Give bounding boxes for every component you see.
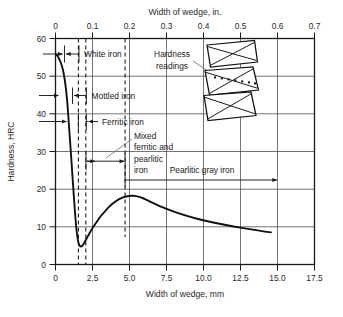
mixed-leader-line	[106, 139, 132, 158]
top-tick-label-6: 0.6	[272, 21, 284, 31]
mixed-label-line2: ferritic and	[134, 142, 173, 152]
bottom-tick-label-4: 10.0	[195, 273, 212, 283]
left-tick-label-60: 60	[37, 34, 47, 44]
mixed-label-line3: pearlitic	[134, 154, 163, 164]
bottom-tick-label-3: 7.5	[161, 273, 173, 283]
top-axis-title: Width of wedge, in.	[148, 7, 221, 17]
mixed-label-line4: iron	[134, 165, 148, 175]
bottom-tick-label-6: 15.0	[269, 273, 286, 283]
wedge-specimens-inset	[204, 41, 259, 121]
left-tick-label-40: 40	[37, 109, 47, 119]
top-axis: 0 0.1 0.2 0.3 0.4 0.5 0.6 0.7 Width of w…	[53, 7, 320, 39]
top-tick-label-1: 0.1	[87, 21, 99, 31]
bottom-axis: 0 2.5 5.0 7.5 10.0 12.5 15.0 17.5 Width …	[53, 265, 323, 300]
bottom-tick-label-5: 12.5	[232, 273, 249, 283]
hardness-readings-label-line2: readings	[156, 61, 188, 71]
top-tick-label-3: 0.3	[161, 21, 173, 31]
mottled-iron-label: Mottled iron	[92, 91, 136, 101]
white-iron-label: White iron	[84, 49, 122, 59]
left-tick-label-50: 50	[37, 71, 47, 81]
hardness-readings-label-line1: Hardness	[154, 49, 190, 59]
wedge-specimen-bottom	[204, 92, 256, 121]
chart-figure: 0 0.1 0.2 0.3 0.4 0.5 0.6 0.7 Width of w…	[0, 0, 343, 317]
top-tick-label-7: 0.7	[309, 21, 321, 31]
left-axis: 0 10 20 30 40 50 60 Hardness, HRC	[6, 34, 56, 270]
annotation-mottled-iron: Mottled iron	[39, 88, 136, 105]
pearlitic-gray-iron-label: Pearlitic gray iron	[170, 165, 235, 175]
left-tick-label-0: 0	[41, 260, 46, 270]
ferritic-iron-label: Ferritic iron	[102, 117, 144, 127]
top-tick-label-2: 0.2	[124, 21, 136, 31]
bottom-axis-title: Width of wedge, mm	[146, 289, 224, 299]
left-tick-label-30: 30	[37, 147, 47, 157]
bottom-tick-label-1: 2.5	[87, 273, 99, 283]
left-tick-label-10: 10	[37, 222, 47, 232]
bottom-tick-label-7: 17.5	[306, 273, 323, 283]
annotation-ferritic-iron: Ferritic iron	[39, 114, 144, 131]
wedge-specimen-top	[207, 41, 258, 68]
bottom-tick-label-2: 5.0	[124, 273, 136, 283]
left-tick-label-20: 20	[37, 184, 47, 194]
top-tick-label-5: 0.5	[235, 21, 247, 31]
mixed-label-line1: Mixed	[134, 131, 157, 141]
left-axis-title: Hardness, HRC	[6, 121, 16, 181]
top-tick-label-0: 0	[53, 21, 58, 31]
wedge-specimen-middle	[205, 67, 259, 95]
bottom-tick-label-0: 0	[53, 273, 58, 283]
top-tick-label-4: 0.4	[198, 21, 210, 31]
hardness-vs-wedge-width-chart: 0 0.1 0.2 0.3 0.4 0.5 0.6 0.7 Width of w…	[0, 0, 343, 317]
